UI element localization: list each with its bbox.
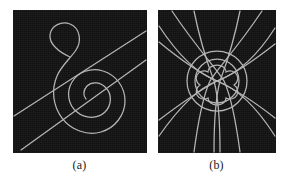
caption-a: (a) [13, 155, 147, 183]
straight-line-2 [21, 60, 146, 150]
figure-container: (a) (b) [0, 0, 288, 183]
panel-b [158, 10, 276, 153]
crossing-curves [159, 11, 275, 152]
panel-a-graphic [13, 10, 147, 153]
caption-row: (a) (b) [0, 155, 288, 183]
panel-b-graphic [158, 10, 276, 153]
loop-spiral-curve [49, 23, 124, 133]
caption-b: (b) [158, 155, 276, 183]
panel-row [0, 0, 288, 155]
panel-a [13, 10, 147, 153]
